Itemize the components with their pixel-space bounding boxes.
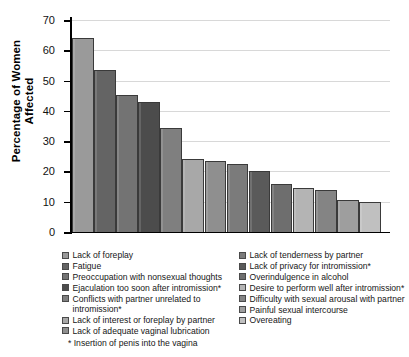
bar [293,188,315,232]
legend-column-right: Lack of tenderness by partnerLack of pri… [239,250,407,326]
legend-item[interactable]: Desire to perform well after intromissio… [239,283,407,293]
legend-label: Lack of adequate vaginal lubrication [73,326,210,336]
legend-item[interactable]: Lack of interest or foreplay by partner [62,315,230,325]
y-tick: 50 [64,81,71,83]
legend-label: Overindulgence in alcohol [250,272,349,282]
y-axis-title: Percentage of Women Affected [10,36,36,166]
legend-swatch [239,252,246,259]
legend-swatch [62,284,69,291]
bar [138,102,160,232]
legend-label: Painful sexual intercourse [250,305,348,315]
y-tick: 0 [64,232,71,234]
y-tick-label: 10 [43,196,55,208]
bar [160,128,182,232]
legend-label: Desire to perform well after intromissio… [250,283,405,293]
legend-column-left: Lack of foreplayFatiguePreoccupation wit… [62,250,230,337]
legend-item[interactable]: Painful sexual intercourse [239,305,407,315]
bar [205,161,227,232]
legend-swatch [239,273,246,280]
footnote-text: * Insertion of penis into the vagina [68,338,197,348]
chart-axes: 706050403020100 [70,20,390,232]
y-tick-label: 0 [49,226,55,238]
y-tick-label: 70 [43,14,55,26]
legend-item[interactable]: Overindulgence in alcohol [239,272,407,282]
y-tick: 60 [64,50,71,52]
legend-item[interactable]: Conflicts with partner unrelated to intr… [62,294,230,315]
legend-item[interactable]: Fatigue [62,261,230,271]
y-tick: 40 [64,111,71,113]
legend-label: Conflicts with partner unrelated to intr… [73,294,231,315]
y-tick-label: 50 [43,75,55,87]
legend-item[interactable]: Lack of foreplay [62,250,230,260]
bar [359,202,381,232]
legend-item[interactable]: Lack of adequate vaginal lubrication [62,326,230,336]
legend-swatch [62,317,69,324]
y-tick-label: 20 [43,165,55,177]
legend-label: Difficulty with sexual arousal with part… [250,294,405,304]
legend-swatch [239,295,246,302]
bar-series [72,20,390,232]
y-tick-label: 30 [43,135,55,147]
legend-swatch [62,273,69,280]
legend-label: Lack of privacy for intromission* [250,261,371,271]
bar [271,184,293,232]
legend-label: Fatigue [73,261,102,271]
y-tick: 30 [64,141,71,143]
bar [337,200,359,232]
legend-label: Overeating [250,315,292,325]
bar [182,159,204,232]
chart-legend: Lack of foreplayFatiguePreoccupation wit… [0,250,409,357]
legend-swatch [62,327,69,334]
plot-area: Percentage of Women Affected 70605040302… [0,0,409,250]
legend-swatch [62,252,69,259]
legend-label: Ejaculation too soon after intromission* [73,283,222,293]
y-tick-label: 40 [43,105,55,117]
legend-label: Lack of interest or foreplay by partner [73,315,215,325]
bar [315,190,337,232]
y-tick: 10 [64,202,71,204]
legend-swatch [62,263,69,270]
legend-item[interactable]: Difficulty with sexual arousal with part… [239,294,407,304]
legend-item[interactable]: Lack of privacy for intromission* [239,261,407,271]
legend-item[interactable]: Overeating [239,315,407,325]
legend-swatch [239,317,246,324]
bar [227,164,249,232]
bar-chart-figure: Percentage of Women Affected 70605040302… [0,0,409,357]
y-tick-label: 60 [43,44,55,56]
bar [72,38,94,232]
legend-label: Lack of tenderness by partner [250,250,364,260]
legend-item[interactable]: Lack of tenderness by partner [239,250,407,260]
legend-item[interactable]: Preoccupation with nonsexual thoughts [62,272,230,282]
bar [94,70,116,232]
legend-swatch [239,306,246,313]
bar [249,171,271,232]
legend-label: Preoccupation with nonsexual thoughts [73,272,223,282]
legend-item[interactable]: Ejaculation too soon after intromission* [62,283,230,293]
y-tick: 70 [64,20,71,22]
legend-swatch [239,284,246,291]
legend-swatch [239,263,246,270]
bar [116,95,138,232]
legend-label: Lack of foreplay [73,250,134,260]
y-tick: 20 [64,171,71,173]
legend-swatch [62,295,69,302]
